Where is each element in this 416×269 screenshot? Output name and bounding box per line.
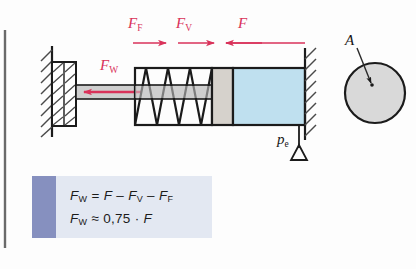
wall-right-hatching [305, 48, 316, 136]
label-force-friction: FF [128, 16, 142, 33]
fixed-wall-left [41, 46, 52, 137]
piston [212, 68, 233, 125]
wall-left-hatching [41, 50, 52, 137]
piston-area-circle [345, 48, 405, 123]
rod-through-spring [135, 86, 212, 98]
pressurised-fluid-chamber [233, 68, 305, 125]
area-leader-dot [370, 83, 374, 87]
formula-line-2: FW ≈ 0,75 · F [70, 211, 212, 227]
label-force-effective: FW [100, 58, 118, 75]
area-circle-shape [345, 63, 405, 123]
formula-line-1: FW = F – FV – FF [70, 188, 212, 204]
label-force-applied: F [238, 16, 247, 31]
label-force-spring: FV [176, 16, 192, 33]
formula-box: FW = F – FV – FF FW ≈ 0,75 · F [32, 176, 212, 238]
fixed-wall-right [305, 48, 316, 140]
formula-box-stripe [32, 176, 56, 238]
label-pressure: pe [277, 132, 289, 149]
figure-canvas: FF FV F FW pe A FW = F – FV – FF FW [0, 0, 416, 269]
hatched-abutment-block [52, 62, 76, 126]
coil-spring [135, 68, 212, 125]
formula-box-lines: FW = F – FV – FF FW ≈ 0,75 · F [56, 176, 212, 238]
label-area: A [345, 33, 354, 48]
